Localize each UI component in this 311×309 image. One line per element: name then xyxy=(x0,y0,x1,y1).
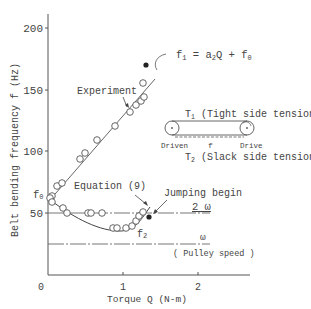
drive-label: Drive xyxy=(240,142,263,150)
two-omega-label: 2 ω xyxy=(192,201,212,213)
y-tick-50: 50 xyxy=(30,208,43,220)
t1-label: T1 (Tight side tension) xyxy=(185,109,311,121)
jumping-begin-label: Jumping begin xyxy=(164,188,242,199)
pulley-speed-label: ( Pulley speed ) xyxy=(173,249,255,259)
f1-jumping-point xyxy=(143,62,148,67)
y-axis-title: Belt bending frequency f (Hz) xyxy=(10,63,21,237)
x-axis-title: Torque Q (N-m) xyxy=(107,294,187,305)
x-tick-0: 0 xyxy=(38,282,44,293)
f2-jumping-point xyxy=(146,214,151,219)
driven-label: Driven xyxy=(161,142,188,150)
formula-leader-arc xyxy=(155,54,166,70)
belt-drive-diagram: T1 (Tight side tension) Driven f Drive T… xyxy=(161,109,311,164)
belt-frequency-chart: 200 150 100 50 0 1 2 Belt bending freque… xyxy=(0,0,311,309)
t2-label: T2 (Slack side tension) xyxy=(185,152,311,164)
x-tick-2: 2 xyxy=(195,282,201,293)
f0-label: f0 xyxy=(33,189,44,201)
y-tick-200: 200 xyxy=(23,23,43,35)
x-tick-1: 1 xyxy=(120,282,126,293)
f2-label: f2 xyxy=(137,229,147,240)
experiment-label: Experiment xyxy=(77,86,137,97)
y-tick-150: 150 xyxy=(23,85,43,97)
formula-label: f1 = a2Q + f0 xyxy=(176,49,252,62)
driven-pulley-hub xyxy=(171,127,173,129)
omega-label: ω xyxy=(200,232,206,243)
y-tick-100: 100 xyxy=(23,146,43,158)
drive-pulley-hub xyxy=(246,127,248,129)
equation-label: Equation (9) xyxy=(74,181,146,192)
f-label: f xyxy=(208,141,213,150)
